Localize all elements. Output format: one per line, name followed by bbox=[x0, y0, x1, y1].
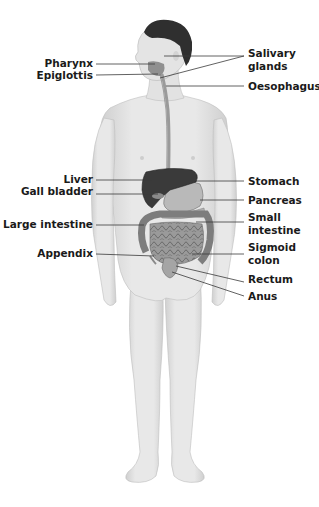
label-pancreas: Pancreas bbox=[248, 194, 302, 206]
label-rectum: Rectum bbox=[248, 273, 293, 285]
left-arm bbox=[92, 118, 117, 306]
label-appendix: Appendix bbox=[37, 247, 93, 259]
label-large-intestine: Large intestine bbox=[3, 218, 93, 230]
left-leg bbox=[126, 270, 163, 482]
label-liver: Liver bbox=[64, 173, 94, 185]
label-oesophagus: Oesophagus bbox=[248, 80, 319, 92]
label-gall-bladder: Gall bladder bbox=[21, 185, 94, 197]
label-small-intestine-line1: Small bbox=[248, 211, 281, 223]
small-intestine-organ bbox=[150, 222, 204, 264]
digestive-system-diagram: Pharynx Epiglottis Salivary glands Oesop… bbox=[0, 0, 319, 507]
label-salivary-glands-line2: glands bbox=[248, 60, 287, 72]
label-stomach: Stomach bbox=[248, 175, 300, 187]
label-epiglottis: Epiglottis bbox=[36, 69, 93, 81]
right-leg bbox=[165, 270, 204, 482]
label-salivary-glands-line1: Salivary bbox=[248, 47, 296, 59]
label-pharynx: Pharynx bbox=[44, 57, 93, 69]
label-anus: Anus bbox=[248, 290, 277, 302]
label-small-intestine-line2: intestine bbox=[248, 224, 301, 236]
nipple-left bbox=[140, 156, 144, 160]
label-sigmoid-colon-line1: Sigmoid bbox=[248, 241, 296, 253]
nipple-right bbox=[191, 156, 195, 160]
label-sigmoid-colon-line2: colon bbox=[248, 254, 280, 266]
